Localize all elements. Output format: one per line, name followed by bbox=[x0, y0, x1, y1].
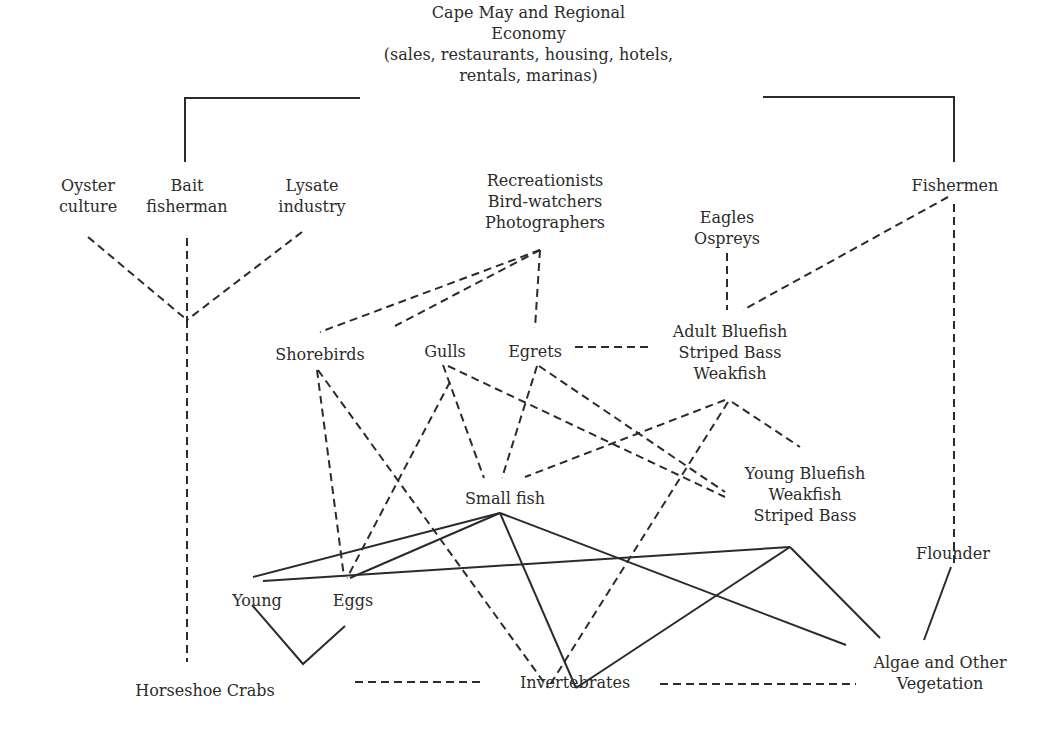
algae-line-1: Algae and Other bbox=[860, 652, 1020, 673]
node-recreationists: Recreationists Bird-watchers Photographe… bbox=[475, 170, 615, 233]
solid-connector bbox=[924, 567, 951, 640]
node-small-fish: Small fish bbox=[450, 488, 560, 509]
dashed-connector bbox=[539, 366, 725, 492]
lysate-line-2: industry bbox=[262, 196, 362, 217]
solid-connector bbox=[185, 98, 360, 162]
dashed-connector bbox=[395, 250, 540, 326]
adult-fish-line-3: Weakfish bbox=[655, 363, 805, 384]
node-adult-fish: Adult Bluefish Striped Bass Weakfish bbox=[655, 321, 805, 384]
economy-line-3: (sales, restaurants, housing, hotels, bbox=[0, 44, 1057, 65]
eagles-line-1: Eagles bbox=[677, 207, 777, 228]
gulls-label: Gulls bbox=[405, 341, 485, 362]
economy-line-4: rentals, marinas) bbox=[0, 65, 1057, 86]
solid-connector bbox=[500, 513, 576, 688]
node-oyster-culture: Oyster culture bbox=[38, 175, 138, 217]
solid-connector bbox=[763, 97, 954, 162]
dashed-connector bbox=[88, 237, 187, 320]
lysate-line-1: Lysate bbox=[262, 175, 362, 196]
recreation-line-1: Recreationists bbox=[475, 170, 615, 191]
solid-connector bbox=[252, 605, 345, 664]
node-horseshoe-crabs: Horseshoe Crabs bbox=[125, 680, 285, 701]
node-egrets: Egrets bbox=[495, 341, 575, 362]
oyster-line-2: culture bbox=[38, 196, 138, 217]
egrets-label: Egrets bbox=[495, 341, 575, 362]
oyster-line-1: Oyster bbox=[38, 175, 138, 196]
solid-connector bbox=[790, 547, 880, 638]
flounder-label: Flounder bbox=[898, 543, 1008, 564]
recreation-line-2: Bird-watchers bbox=[475, 191, 615, 212]
node-eagles-ospreys: Eagles Ospreys bbox=[677, 207, 777, 249]
young-fish-line-1: Young Bluefish bbox=[730, 463, 880, 484]
node-algae: Algae and Other Vegetation bbox=[860, 652, 1020, 694]
young-fish-line-2: Weakfish bbox=[730, 484, 880, 505]
young-label: Young bbox=[222, 590, 292, 611]
node-young-crabs: Young bbox=[222, 590, 292, 611]
adult-fish-line-2: Striped Bass bbox=[655, 342, 805, 363]
node-eggs: Eggs bbox=[318, 590, 388, 611]
dashed-connector bbox=[187, 232, 302, 320]
fishermen-label: Fishermen bbox=[895, 175, 1015, 196]
bait-line-1: Bait bbox=[137, 175, 237, 196]
economy-line-1: Cape May and Regional bbox=[0, 2, 1057, 23]
young-fish-line-3: Striped Bass bbox=[730, 505, 880, 526]
bait-line-2: fisherman bbox=[137, 196, 237, 217]
solid-connector bbox=[576, 547, 790, 688]
diagram-connections bbox=[0, 0, 1057, 733]
economy-line-2: Economy bbox=[0, 23, 1057, 44]
node-invertebrates: Invertebrates bbox=[510, 672, 640, 693]
node-economy: Cape May and Regional Economy (sales, re… bbox=[0, 2, 1057, 86]
dashed-connector bbox=[535, 250, 540, 328]
dashed-connector bbox=[732, 402, 800, 447]
eggs-label: Eggs bbox=[318, 590, 388, 611]
eagles-line-2: Ospreys bbox=[677, 228, 777, 249]
dashed-connector bbox=[317, 370, 344, 577]
invertebrates-label: Invertebrates bbox=[510, 672, 640, 693]
dashed-connector bbox=[448, 366, 725, 497]
node-shorebirds: Shorebirds bbox=[260, 344, 380, 365]
dashed-connector bbox=[548, 402, 728, 688]
shorebirds-label: Shorebirds bbox=[260, 344, 380, 365]
food-web-diagram: Cape May and Regional Economy (sales, re… bbox=[0, 0, 1057, 733]
node-lysate-industry: Lysate industry bbox=[262, 175, 362, 217]
algae-line-2: Vegetation bbox=[860, 673, 1020, 694]
dashed-connector bbox=[443, 365, 484, 478]
horseshoe-label: Horseshoe Crabs bbox=[125, 680, 285, 701]
node-fishermen: Fishermen bbox=[895, 175, 1015, 196]
dashed-connector bbox=[320, 250, 540, 332]
node-flounder: Flounder bbox=[898, 543, 1008, 564]
recreation-line-3: Photographers bbox=[475, 212, 615, 233]
adult-fish-line-1: Adult Bluefish bbox=[655, 321, 805, 342]
dashed-connector bbox=[318, 370, 548, 688]
node-bait-fisherman: Bait fisherman bbox=[137, 175, 237, 217]
small-fish-label: Small fish bbox=[450, 488, 560, 509]
node-young-fish: Young Bluefish Weakfish Striped Bass bbox=[730, 463, 880, 526]
dashed-connector bbox=[502, 366, 537, 478]
dashed-connector bbox=[525, 400, 725, 477]
node-gulls: Gulls bbox=[405, 341, 485, 362]
